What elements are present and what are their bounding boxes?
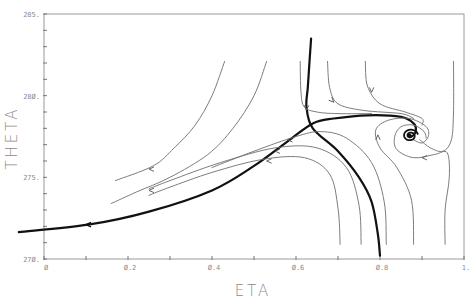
y-tick-label: 275. <box>23 174 40 182</box>
x-tick-label: Ø.6 <box>292 264 305 272</box>
trajectory-traj-lower-spiral-4 <box>375 118 428 244</box>
phase-portrait-chart: ØØ.2Ø.4Ø.6Ø.81.27Ø.275.28Ø.285. ETA THET… <box>0 0 475 307</box>
y-tick-label: 285. <box>23 11 40 19</box>
arrowhead-icon <box>422 156 427 160</box>
trajectory-traj-lower-1 <box>149 157 340 245</box>
trajectory-traj-lower-3 <box>212 132 386 245</box>
x-tick-label: 1. <box>462 264 470 272</box>
x-axis-title: ETA <box>235 282 272 300</box>
direction-arrows <box>86 87 427 227</box>
axis-ticks <box>43 14 464 260</box>
arrowhead-icon <box>376 135 380 140</box>
x-tick-label: Ø <box>44 264 49 272</box>
trajectory-traj-top-right <box>420 61 454 151</box>
y-axis-title: THETA <box>3 106 21 169</box>
arrowhead-icon <box>267 159 272 163</box>
tick-labels: ØØ.2Ø.4Ø.6Ø.81.27Ø.275.28Ø.285. <box>23 11 470 272</box>
y-tick-label: 28Ø. <box>23 93 40 101</box>
trajectories <box>19 39 454 256</box>
trajectory-separatrix-vertical <box>306 39 380 256</box>
trajectory-traj-upper-left-1 <box>115 61 224 180</box>
x-tick-label: Ø.8 <box>376 264 389 272</box>
trajectory-traj-near-saddle-1 <box>300 61 371 113</box>
y-tick-label: 27Ø. <box>23 256 40 264</box>
x-tick-label: Ø.2 <box>124 264 137 272</box>
x-tick-label: Ø.4 <box>208 264 221 272</box>
